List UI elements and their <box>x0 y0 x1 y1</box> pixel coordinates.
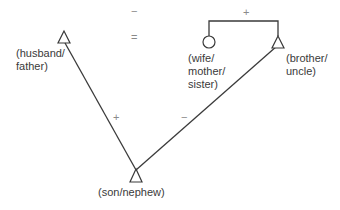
wife-mother-sister-circle-icon <box>203 36 215 48</box>
husband-father-label: (husband/ father) <box>16 47 65 73</box>
husband-father-triangle-icon <box>58 31 70 43</box>
uncle-nephew-sign: − <box>181 112 187 123</box>
marriage-sign: = <box>131 32 137 43</box>
kinship-diagram <box>0 0 340 210</box>
brother-uncle-triangle-icon <box>272 36 284 48</box>
father-son-line <box>65 43 136 170</box>
father-son-sign: + <box>113 112 119 123</box>
sibling-bracket-line <box>209 21 278 36</box>
son-nephew-triangle-icon <box>130 169 142 182</box>
son-nephew-label: (son/nephew) <box>98 186 165 199</box>
wife-mother-sister-label: (wife/ mother/ sister) <box>188 52 225 91</box>
brother-uncle-label: (brother/ uncle) <box>286 52 328 78</box>
brother-sister-sign: + <box>243 7 249 18</box>
husband-wife-sign: − <box>131 6 137 17</box>
